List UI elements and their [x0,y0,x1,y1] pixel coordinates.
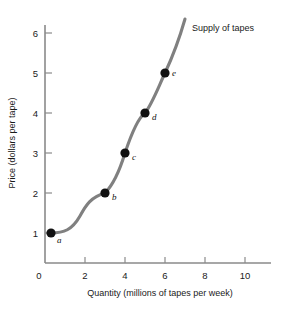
y-tick-label-1: 1 [33,228,38,239]
y-tick-label-2: 2 [33,188,38,199]
x-tick-label-6: 6 [162,270,167,281]
x-tick-label-8: 8 [202,270,207,281]
x-tick-label-2: 2 [82,270,87,281]
y-tick-label-4: 4 [33,108,38,119]
data-point-d [140,108,149,117]
supply-curve-label: Supply of tapes [192,23,255,33]
data-point-label-d: d [152,112,157,122]
data-point-label-c: c [132,152,136,162]
chart-canvas: 6 5 4 3 2 1 0 2 4 6 8 10 Quantity (milli… [0,0,283,313]
y-tick-label-3: 3 [33,148,38,159]
x-tick-label-0: 0 [36,270,41,281]
y-tick-label-6: 6 [33,28,38,39]
data-point-e [160,68,169,77]
data-point-b [100,188,109,197]
data-point-label-e: e [172,68,176,78]
data-point-label-a: a [57,235,62,245]
supply-curve-path [51,19,185,233]
y-axis-title: Price (dollars per tape) [7,97,17,188]
data-point-c [120,148,129,157]
data-point-a [46,228,55,237]
data-point-label-b: b [112,192,117,202]
x-tick-label-4: 4 [122,270,127,281]
y-tick-label-5: 5 [33,68,38,79]
x-tick-label-10: 10 [240,270,251,281]
supply-curve-chart: 6 5 4 3 2 1 0 2 4 6 8 10 Quantity (milli… [0,0,283,313]
x-axis-title: Quantity (millions of tapes per week) [87,288,233,298]
